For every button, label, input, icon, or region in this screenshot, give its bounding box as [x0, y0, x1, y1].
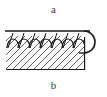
coil-end-loop — [84, 31, 95, 53]
figure-root: a — [0, 0, 107, 97]
label-b: b — [0, 80, 107, 91]
